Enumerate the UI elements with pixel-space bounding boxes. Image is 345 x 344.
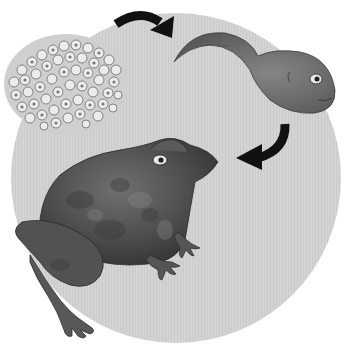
- illustration-canvas: [0, 0, 345, 344]
- frog-life-cycle-illustration: [0, 0, 345, 344]
- frog-spawn-eggs: [4, 34, 128, 134]
